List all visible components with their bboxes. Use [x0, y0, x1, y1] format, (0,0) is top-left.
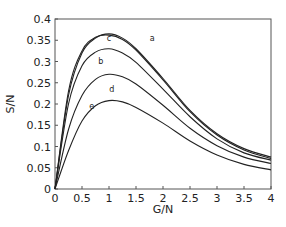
- x-tick-label: 3: [214, 192, 221, 205]
- y-tick-label: 0.15: [27, 119, 52, 132]
- curve-label-d: d: [109, 85, 114, 94]
- curve-label-b: b: [98, 57, 103, 66]
- curve-label-e: e: [89, 102, 94, 111]
- y-axis-title: S/N: [4, 95, 17, 114]
- x-tick-label: 4: [268, 192, 275, 205]
- y-tick-label: 0.1: [34, 141, 52, 154]
- y-tick-label: 0.3: [34, 56, 52, 69]
- x-tick-label: 0.5: [73, 192, 91, 205]
- x-tick-label: 3.5: [235, 192, 253, 205]
- curves: [55, 34, 271, 189]
- y-axis-ticks: 00.050.10.150.20.250.30.350.4: [27, 13, 59, 196]
- curve-b: [55, 49, 271, 189]
- y-tick-label: 0.25: [27, 77, 52, 90]
- x-tick-label: 1.5: [127, 192, 145, 205]
- chart: 00.511.522.533.54 00.050.10.150.20.250.3…: [0, 0, 286, 227]
- curve-a: [55, 34, 271, 189]
- x-tick-label: 0: [52, 192, 59, 205]
- y-tick-label: 0.2: [34, 98, 52, 111]
- curve-label-c: c: [107, 34, 111, 43]
- curve-label-a: a: [150, 34, 155, 43]
- curve-labels: acbde: [89, 34, 154, 111]
- y-tick-label: 0.05: [27, 162, 52, 175]
- x-tick-label: 1: [106, 192, 113, 205]
- curve-e: [55, 100, 271, 189]
- y-tick-label: 0.35: [27, 34, 52, 47]
- curve-d: [55, 74, 271, 189]
- x-tick-label: 2.5: [181, 192, 199, 205]
- y-tick-label: 0.4: [34, 13, 52, 26]
- y-tick-label: 0: [44, 183, 51, 196]
- x-axis-title: G/N: [153, 203, 173, 216]
